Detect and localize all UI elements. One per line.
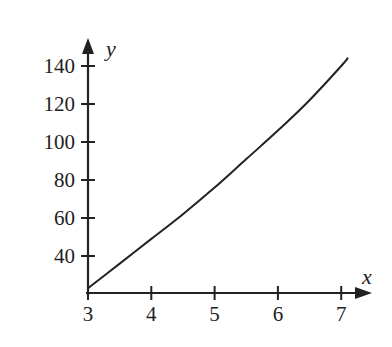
- line-chart: 406080100120140 34567 y x: [0, 0, 392, 347]
- x-tick-label: 7: [336, 302, 347, 326]
- y-tick-label: 40: [54, 244, 75, 268]
- x-tick-label: 4: [146, 302, 157, 326]
- x-tick-label: 5: [209, 302, 220, 326]
- y-tick-label: 80: [54, 168, 75, 192]
- x-tick-label: 3: [83, 302, 94, 326]
- x-axis: [86, 287, 372, 299]
- y-axis-arrow-icon: [82, 38, 94, 54]
- x-tick-label: 6: [273, 302, 284, 326]
- x-axis-label: x: [361, 264, 372, 289]
- y-tick-label: 140: [44, 54, 76, 78]
- y-axis-label: y: [104, 36, 116, 61]
- y-tick-label: 100: [44, 130, 76, 154]
- y-tick-label: 120: [44, 92, 76, 116]
- series-line: [88, 58, 348, 288]
- y-tick-label: 60: [54, 206, 75, 230]
- y-axis: [82, 38, 94, 296]
- data-series: [88, 58, 348, 288]
